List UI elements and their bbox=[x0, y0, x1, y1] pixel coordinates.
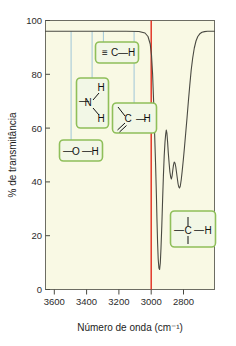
alkyne-hydrogen-label: H bbox=[128, 47, 135, 58]
ir-spectrum-figure: 100 80 60 40 20 0 % de bbox=[0, 0, 236, 346]
y-tick-label: 100 bbox=[26, 15, 42, 26]
alcohol-oh-callout[interactable]: — O — H bbox=[60, 140, 103, 161]
alcohol-hydrogen-label: H bbox=[91, 146, 98, 157]
amine-nitrogen-label: N bbox=[84, 97, 91, 108]
alkane-left-bond-symbol: — bbox=[174, 224, 184, 235]
x-tick-label: 3600 bbox=[44, 296, 65, 307]
x-tick-label: 3400 bbox=[76, 296, 97, 307]
y-axis-title: % de transmitância bbox=[7, 112, 18, 197]
y-tick-label: 20 bbox=[31, 230, 42, 241]
x-tick-label: 3200 bbox=[108, 296, 129, 307]
amine-nh-callout[interactable]: — N H H bbox=[77, 78, 109, 128]
alcohol-oxygen-label: O bbox=[72, 146, 80, 157]
alkene-carbon-label: C bbox=[124, 113, 131, 124]
x-axis-title: Número de onda (cm⁻¹) bbox=[77, 322, 183, 333]
alkyne-triple-bond-symbol: ≡ bbox=[102, 47, 108, 58]
alkyne-ch-callout[interactable]: ≡ C — H bbox=[96, 42, 139, 63]
y-tick-label: 40 bbox=[31, 176, 42, 187]
amine-hydrogen-top-label: H bbox=[97, 82, 104, 93]
alkane-ch-callout[interactable]: — C — H bbox=[171, 211, 216, 247]
alkene-hydrogen-label: H bbox=[143, 113, 150, 124]
alkane-carbon-label: C bbox=[184, 225, 191, 236]
alkane-hydrogen-label: H bbox=[204, 225, 211, 236]
alkene-ch-callout[interactable]: C — H bbox=[113, 103, 157, 133]
alkane-right-bond-symbol: — bbox=[194, 224, 204, 235]
y-tick-label: 80 bbox=[31, 69, 42, 80]
alkyne-single-bond-symbol: — bbox=[118, 47, 128, 58]
x-tick-label: 2800 bbox=[173, 296, 194, 307]
x-tick-label: 3000 bbox=[141, 296, 162, 307]
y-tick-label: 60 bbox=[31, 123, 42, 134]
y-tick-label: 0 bbox=[37, 284, 42, 295]
ir-spectrum-chart: 100 80 60 40 20 0 % de bbox=[0, 0, 236, 346]
